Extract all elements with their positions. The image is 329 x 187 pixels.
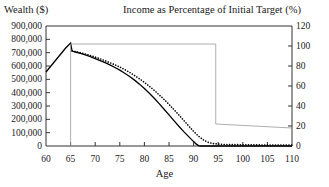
y-axis-tick-label-right: 120	[296, 21, 310, 31]
y-axis-tick-label-right: 20	[296, 121, 306, 131]
y-axis-tick-label-left: 300,000	[0, 101, 42, 111]
x-axis-tick-label: 110	[277, 154, 307, 164]
series-line-2	[71, 44, 292, 146]
y-axis-tick-label-right: 100	[296, 41, 310, 51]
y-axis-tick-label-left: 600,000	[0, 61, 42, 71]
y-axis-tick-label-left: 800,000	[0, 34, 42, 44]
y-axis-tick-label-left: 0	[0, 141, 42, 151]
y-axis-tick-label-left: 900,000	[0, 21, 42, 31]
y-axis-tick-label-right: 40	[296, 101, 306, 111]
y-axis-tick-label-left: 200,000	[0, 114, 42, 124]
y-axis-tick-label-left: 100,000	[0, 128, 42, 138]
y-axis-tick-label-right: 80	[296, 61, 306, 71]
y-axis-tick-label-right: 60	[296, 81, 306, 91]
x-axis-title: Age	[0, 168, 329, 180]
y-axis-tick-label-right: 0	[296, 141, 301, 151]
y-axis-tick-label-left: 400,000	[0, 88, 42, 98]
series-line-1	[72, 51, 292, 145]
series-line-0	[46, 43, 292, 146]
y-axis-tick-label-left: 500,000	[0, 74, 42, 84]
y-axis-tick-label-left: 700,000	[0, 48, 42, 58]
chart-figure: Wealth ($) Income as Percentage of Initi…	[0, 0, 329, 187]
